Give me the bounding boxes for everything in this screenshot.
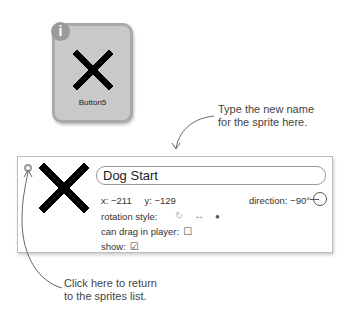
sprite-name-label: Button5 <box>55 98 130 107</box>
x-costume-icon <box>38 162 90 214</box>
rotation-style-options: ↻ ↔ ● <box>175 210 228 221</box>
left-right-flip-icon[interactable]: ↔ <box>194 210 204 221</box>
x-position: x: −211 <box>101 195 132 206</box>
can-drag-row: can drag in player:☐ <box>101 226 192 237</box>
x-costume-icon <box>73 50 113 90</box>
rename-arrow-icon <box>176 116 214 148</box>
rename-callout-line1: Type the new name <box>218 103 314 116</box>
sprite-name-input[interactable] <box>96 166 326 185</box>
back-callout-line1: Click here to return <box>64 277 157 290</box>
direction-label: direction: −90° <box>249 195 310 206</box>
sprite-thumbnail-card[interactable]: i Button5 <box>52 23 133 123</box>
dont-rotate-icon[interactable]: ● <box>215 212 220 221</box>
back-callout: Click here to return to the sprites list… <box>64 277 157 303</box>
sprite-info-panel: x: −211 y: −129 direction: −90° rotation… <box>17 156 333 253</box>
rename-callout-line2: for the sprite here. <box>218 116 314 129</box>
rotate-all-around-icon[interactable]: ↻ <box>175 210 183 221</box>
show-label: show: <box>101 241 126 252</box>
rotation-style-label: rotation style: <box>101 211 158 222</box>
info-icon[interactable]: i <box>51 22 70 41</box>
can-drag-label: can drag in player: <box>101 226 179 237</box>
y-position: y: −129 <box>144 195 175 206</box>
position-row: x: −211 y: −129 <box>101 195 176 206</box>
back-to-sprites-button[interactable] <box>24 164 32 172</box>
can-drag-checkbox[interactable]: ☐ <box>183 226 192 237</box>
show-checkbox[interactable]: ☑ <box>130 241 139 252</box>
show-row: show:☑ <box>101 241 139 252</box>
rename-callout: Type the new name for the sprite here. <box>218 103 314 129</box>
back-callout-line2: to the sprites list. <box>64 290 157 303</box>
direction-dial-icon[interactable] <box>313 192 327 206</box>
